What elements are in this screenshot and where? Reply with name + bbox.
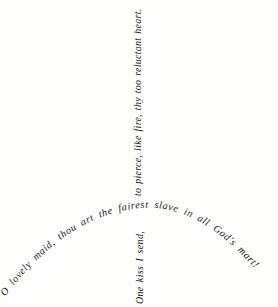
- verse-vertical-up-line: to pierce, like fire, thy too reluctant …: [132, 8, 143, 196]
- verse-arc-textpath: O lovely maid, thou art the fairest slav…: [0, 199, 262, 298]
- verse-composition-canvas: O lovely maid, thou art the fairest slav…: [0, 0, 278, 307]
- verse-vertical-down-line: One kiss I send,: [134, 231, 145, 304]
- verse-arc-line: O lovely maid, thou art the fairest slav…: [0, 199, 262, 298]
- verse-vertical-down-textpath: One kiss I send,: [134, 231, 145, 304]
- verse-svg-surface: O lovely maid, thou art the fairest slav…: [0, 0, 278, 307]
- verse-vertical-up-textpath: to pierce, like fire, thy too reluctant …: [132, 8, 143, 196]
